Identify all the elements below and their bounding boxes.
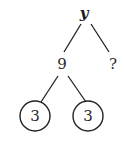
leaf-label-1: 3 xyxy=(30,107,40,125)
edge-root-to-right xyxy=(91,24,109,52)
edge-left-to-leaf-1 xyxy=(41,76,58,102)
factor-tree-diagram: y 9 ? 3 3 xyxy=(0,0,124,148)
leaf-label-2: 3 xyxy=(83,107,93,125)
edge-root-to-left xyxy=(64,24,81,52)
leaf-node-1: 3 xyxy=(20,101,50,131)
leaf-node-2: 3 xyxy=(73,101,103,131)
edge-left-to-leaf-2 xyxy=(68,76,86,102)
left-child-label: 9 xyxy=(57,55,67,73)
root-node-label: y xyxy=(79,4,90,22)
right-child-label: ? xyxy=(109,55,117,73)
